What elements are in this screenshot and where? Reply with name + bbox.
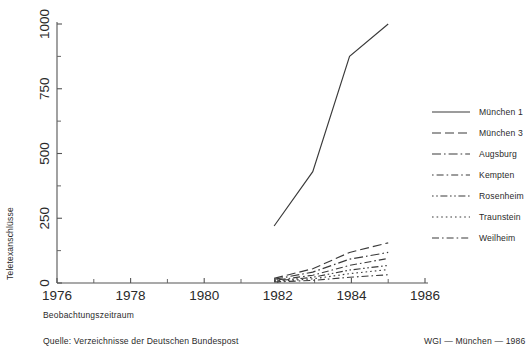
legend-label: Augsburg: [479, 149, 517, 159]
legend-label: München 1: [479, 107, 523, 117]
legend-label: Kempten: [479, 170, 515, 180]
y-axis-label: Teletexanschlüsse: [5, 207, 15, 280]
chart-series-group: [274, 24, 388, 282]
series-line: [274, 24, 388, 226]
y-tick-label: 1000: [37, 9, 52, 39]
y-tick-label: 250: [37, 207, 52, 230]
y-tick-label: 500: [37, 142, 52, 165]
chart-legend: München 1München 3AugsburgKemptenRosenhe…: [432, 107, 524, 243]
series-line: [274, 243, 388, 278]
source-note: Quelle: Verzeichnisse der Deutschen Bund…: [43, 336, 239, 346]
x-tick-label: 1986: [410, 288, 440, 303]
x-tick-label: 1984: [336, 288, 367, 303]
y-tick-label: 750: [37, 77, 52, 100]
x-axis-label: Beobachtungszeitraum: [43, 310, 134, 320]
line-chart: 02505007501000 197619781980198219841986 …: [0, 0, 532, 359]
series-line: [274, 265, 388, 281]
chart-axes: 02505007501000 197619781980198219841986: [37, 9, 440, 303]
y-axis-ticks: [57, 24, 62, 283]
series-line: [274, 252, 388, 279]
y-tick-label: 0: [37, 279, 52, 287]
x-tick-label: 1980: [189, 288, 219, 303]
x-axis-minor-ticks: [94, 279, 388, 283]
legend-label: Weilheim: [479, 233, 515, 243]
y-axis-tick-labels: 02505007501000: [37, 9, 52, 287]
legend-label: Rosenheim: [479, 191, 524, 201]
chart-figure: 02505007501000 197619781980198219841986 …: [0, 0, 532, 359]
x-tick-label: 1978: [116, 288, 146, 303]
attribution-note: WGI — München — 1986: [424, 336, 525, 346]
x-tick-label: 1982: [263, 288, 293, 303]
x-tick-label: 1976: [42, 288, 72, 303]
x-axis-tick-labels: 197619781980198219841986: [42, 288, 440, 303]
series-line: [274, 270, 388, 282]
series-line: [274, 258, 388, 280]
legend-label: Traunstein: [479, 212, 521, 222]
legend-label: München 3: [479, 128, 523, 138]
